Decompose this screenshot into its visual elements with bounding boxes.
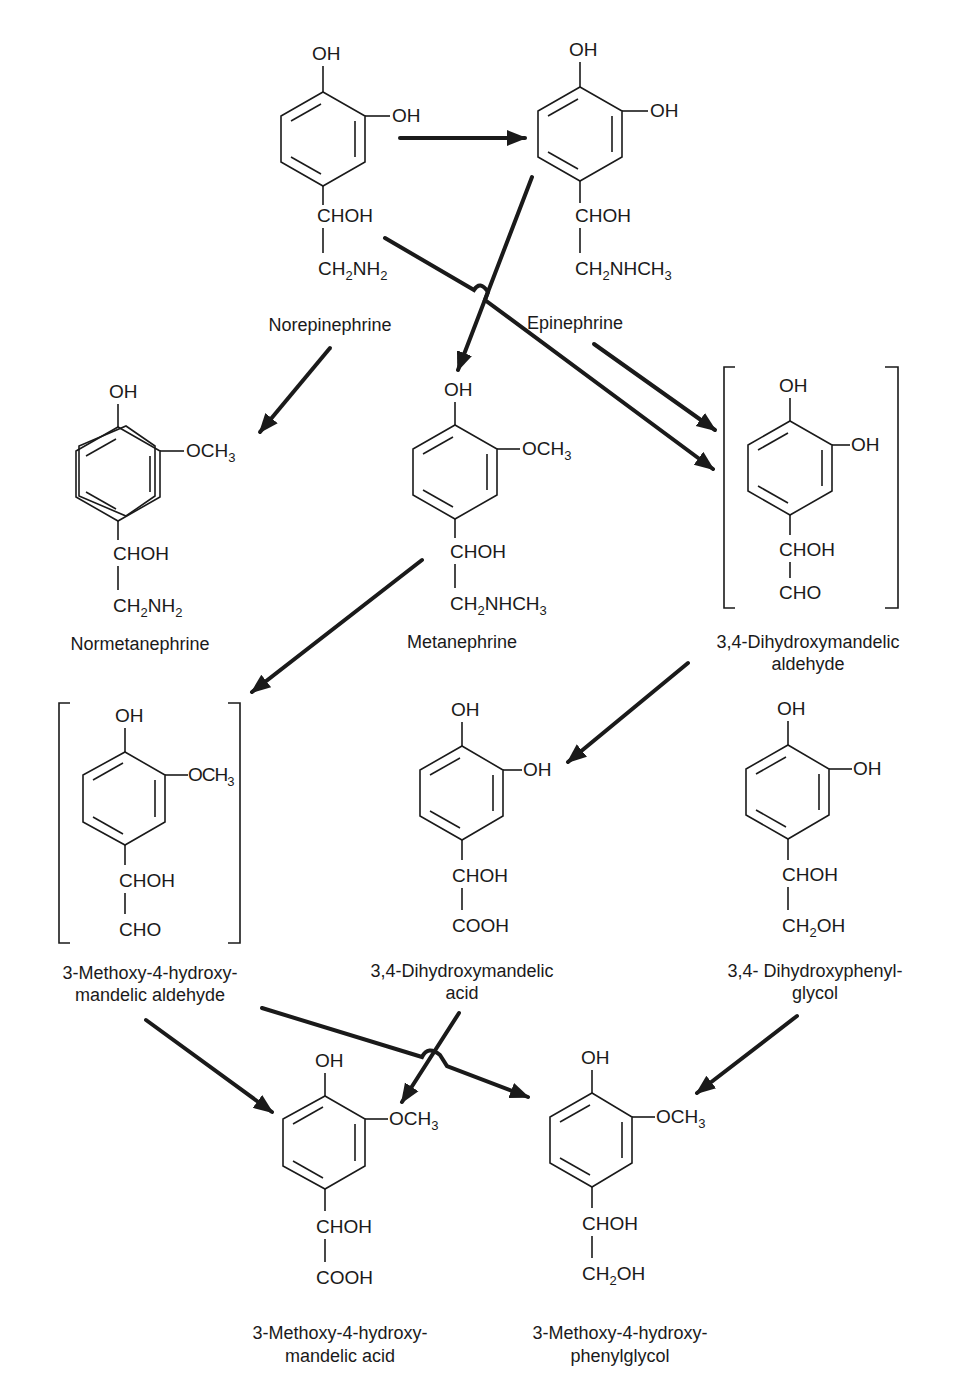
compound-norepinephrine: OH OH CHOH CH2NH2 Norepinephrine [268,43,420,335]
group-chooh: CHOH [119,870,175,891]
group-ch2nh2: CH2NH2 [113,595,182,620]
arrow-epinephrine-to-metanephrine [458,177,532,370]
group-ch2nhch3: CH2NHCH3 [575,258,672,283]
compound-methoxyhydroxymandelic-aldehyde: OH OCH3 CHOH CHO 3-Methoxy-4-hydroxy- ma… [59,703,240,1005]
group-oh-top: OH [115,705,144,726]
compound-methoxyhydroxymandelic-acid: OH OCH3 CHOH COOH 3-Methoxy-4-hydroxy- m… [252,1050,438,1366]
group-oh-top: OH [315,1050,344,1071]
group-ch2nh2: CH2NH2 [318,258,387,283]
group-cooh: COOH [316,1267,373,1288]
arrow-norepinephrine-to-normetanephrine [260,348,330,432]
group-oh-top: OH [581,1047,610,1068]
compound-label-line2: acid [445,983,478,1003]
group-oh-top: OH [312,43,341,64]
compound-label: Metanephrine [407,632,517,652]
arrow-dhpg-to-mhpg [697,1016,797,1093]
group-chooh: CHOH [575,205,631,226]
arrow-mhma-aldehyde-to-vma [146,1020,272,1112]
compound-normetanephrine [79,426,155,516]
arrow-dhma-aldehyde-to-dhma-acid [568,663,688,762]
benzene-ring [538,87,622,181]
compound-label-line2: mandelic aldehyde [75,985,225,1005]
compound-label-line2: mandelic acid [285,1346,395,1366]
group-oh-meta: OH [523,759,552,780]
compound-label-line1: 3,4-Dihydroxymandelic [716,632,899,652]
compound-label-line2: aldehyde [771,654,844,674]
group-cho: CHO [119,919,161,940]
group-oh-top: OH [451,699,480,720]
compound-methoxyhydroxyphenylglycol: OH OCH3 CHOH CH2OH 3-Methoxy-4-hydroxy- … [532,1047,707,1366]
benzene-ring [79,426,155,516]
group-chooh: CHOH [450,541,506,562]
benzene-ring [281,92,365,186]
group-och3: OCH3 [389,1108,438,1133]
group-och3: OCH3 [656,1106,705,1131]
compound-label: Epinephrine [527,313,623,333]
compound-label: Normetanephrine [70,634,209,654]
group-och3: OCH3 [188,764,234,789]
group-chooh: CHOH [316,1216,372,1237]
bracket-left [724,367,735,608]
compound-label-line1: 3,4- Dihydroxyphenyl- [727,961,902,981]
compound-label-line1: 3,4-Dihydroxymandelic [370,961,553,981]
group-och3: OCH3 [186,440,235,465]
group-ch2oh: CH2OH [782,915,845,940]
bracket-right [885,367,898,608]
group-chooh: CHOH [317,205,373,226]
compound-metanephrine: OH OCH3 CHOH CH2NHCH3 Metanephrine [407,379,572,652]
bracket-left [59,703,70,943]
arrow-metanephrine-to-mhma-aldehyde [252,560,422,692]
arrow-dhma-acid-to-vma [402,1013,459,1102]
group-cooh: COOH [452,915,509,936]
group-ch2oh: CH2OH [582,1263,645,1288]
arrow-epinephrine-to-dhma-aldehyde [594,344,715,430]
group-oh-meta: OH [392,105,421,126]
compound-label-line2: phenylglycol [570,1346,669,1366]
compound-label: Norepinephrine [268,315,391,335]
group-oh-top: OH [777,698,806,719]
compound-label-line2: glycol [792,983,838,1003]
compound-normetanephrine-ring: OH OCH3 CHOH CH2NH2 Normetanephrine [70,381,235,654]
group-oh-top: OH [779,375,808,396]
compound-label-line1: 3-Methoxy-4-hydroxy- [252,1323,427,1343]
group-oh-top: OH [569,39,598,60]
group-oh-meta: OH [650,100,679,121]
compound-label-line1: 3-Methoxy-4-hydroxy- [532,1323,707,1343]
compound-epinephrine: OH OH CHOH CH2NHCH3 Epinephrine [527,39,679,333]
compound-dihydroxymandelic-acid: OH OH CHOH COOH 3,4-Dihydroxymandelic ac… [370,699,553,1003]
group-chooh: CHOH [452,865,508,886]
group-chooh: CHOH [582,1213,638,1234]
group-chooh: CHOH [779,539,835,560]
compound-label-line1: 3-Methoxy-4-hydroxy- [62,963,237,983]
group-och3: OCH3 [522,438,571,463]
group-cho: CHO [779,582,821,603]
compound-dihydroxyphenylglycol: OH OH CHOH CH2OH 3,4- Dihydroxyphenyl- g… [727,698,902,1003]
group-oh-meta: OH [851,434,880,455]
group-oh-meta: OH [853,758,882,779]
group-ch2nhch3: CH2NHCH3 [450,593,547,618]
group-chooh: CHOH [113,543,169,564]
bracket-right [228,703,240,943]
group-chooh: CHOH [782,864,838,885]
arrow-mhma-aldehyde-to-mhpg [262,1008,528,1097]
group-oh-top: OH [109,381,138,402]
group-oh-top: OH [444,379,473,400]
compound-dihydroxymandelic-aldehyde: OH OH CHOH CHO 3,4-Dihydroxymandelic ald… [716,367,899,674]
metabolic-pathway-diagram: OH OH CHOH CH2NH2 Norepinephrine OH OH C… [0,0,964,1382]
